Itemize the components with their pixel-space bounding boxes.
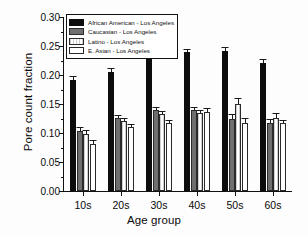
error-bar [162, 112, 163, 114]
error-bar [245, 119, 246, 123]
error-bar-cap [184, 49, 191, 50]
error-bar [207, 109, 208, 112]
error-bar [263, 60, 264, 63]
error-bar [86, 131, 87, 134]
bar [121, 121, 127, 191]
y-axis-minor-tick [61, 32, 64, 33]
bar [197, 113, 203, 191]
legend-swatch [69, 38, 84, 45]
bar [108, 72, 114, 191]
error-bar-cap [273, 113, 280, 114]
legend-swatch [69, 47, 84, 54]
error-bar [194, 108, 195, 110]
y-axis-minor-tick [61, 148, 64, 149]
error-bar-cap [203, 108, 210, 109]
error-bar [124, 119, 125, 121]
y-axis-tick-label: 0.10 [41, 128, 60, 139]
error-bar-cap [127, 124, 134, 125]
bar [280, 123, 286, 191]
bar [273, 118, 279, 191]
error-bar-cap [241, 118, 248, 119]
bar [128, 127, 134, 191]
legend-label: E. Asian - Los Angeles [88, 47, 150, 54]
y-axis-tick-label: 0.20 [41, 70, 60, 81]
error-bar [93, 141, 94, 144]
y-axis-tick-label: 0.05 [41, 157, 60, 168]
legend-label: African American - Los Angeles [88, 19, 174, 26]
error-bar-cap [197, 110, 204, 111]
error-bar [118, 116, 119, 118]
error-bar-cap [260, 59, 267, 60]
y-axis-minor-tick [61, 119, 64, 120]
bar-group [222, 17, 248, 191]
legend-label: Latino - Los Angeles [88, 38, 144, 45]
error-bar [156, 108, 157, 110]
bar [70, 80, 76, 191]
error-bar [131, 125, 132, 127]
legend-label: Caucasian - Los Angeles [88, 28, 156, 35]
x-axis-tick [159, 191, 160, 196]
error-bar-cap [114, 115, 121, 116]
x-axis-tick-label: 40s [189, 199, 206, 211]
error-bar-cap [279, 120, 286, 121]
bar [166, 123, 172, 191]
legend-item: Caucasian - Los Angeles [69, 27, 174, 36]
error-bar [232, 115, 233, 118]
bar [77, 131, 83, 191]
bar [222, 51, 228, 191]
error-bar-cap [190, 107, 197, 108]
error-bar-cap [108, 68, 115, 69]
error-bar-cap [165, 120, 172, 121]
bar [83, 134, 89, 191]
chart-legend: African American - Los AngelesCaucasian … [66, 14, 178, 59]
legend-swatch [69, 28, 84, 35]
y-axis-tick-label: 0.25 [41, 41, 60, 52]
bar [90, 144, 96, 191]
x-axis-tick [273, 191, 274, 196]
legend-item: African American - Los Angeles [69, 18, 174, 27]
error-bar-cap [235, 98, 242, 99]
bar [153, 110, 159, 191]
error-bar [276, 114, 277, 118]
error-bar [270, 120, 271, 122]
error-bar [187, 50, 188, 52]
error-bar [169, 121, 170, 123]
y-axis-tick-label: 0.00 [41, 186, 60, 197]
x-axis-tick-label: 10s [75, 199, 92, 211]
error-bar-cap [89, 140, 96, 141]
error-bar-cap [228, 114, 235, 115]
error-bar [73, 77, 74, 80]
bar [260, 63, 266, 191]
x-axis-tick [235, 191, 236, 196]
legend-item: Latino - Los Angeles [69, 37, 174, 46]
y-axis-tick-label: 0.30 [41, 12, 60, 23]
y-axis-title: Pore count fraction [22, 22, 34, 182]
chart-figure: Pore count fraction Age group 0.000.050.… [0, 0, 308, 237]
bar [204, 112, 210, 191]
error-bar-cap [83, 130, 90, 131]
x-axis-tick [83, 191, 84, 196]
error-bar-cap [222, 47, 229, 48]
x-axis-title: Age group [0, 214, 308, 226]
bar [159, 114, 165, 191]
bar [146, 59, 152, 191]
x-axis-tick-label: 60s [265, 199, 282, 211]
error-bar-cap [159, 111, 166, 112]
x-axis-tick [197, 191, 198, 196]
bar-group [184, 17, 210, 191]
y-axis-tick-label: 0.15 [41, 99, 60, 110]
error-bar-cap [121, 118, 128, 119]
y-axis-minor-tick [61, 90, 64, 91]
x-axis-tick-label: 20s [113, 199, 130, 211]
error-bar [238, 99, 239, 104]
x-axis-tick-label: 50s [227, 199, 244, 211]
error-bar [111, 69, 112, 72]
y-axis-minor-tick [61, 177, 64, 178]
bar-group [260, 17, 286, 191]
error-bar [200, 111, 201, 113]
error-bar-cap [152, 107, 159, 108]
bar [229, 119, 235, 192]
bar [242, 123, 248, 191]
legend-swatch [69, 19, 84, 26]
x-axis-tick [121, 191, 122, 196]
